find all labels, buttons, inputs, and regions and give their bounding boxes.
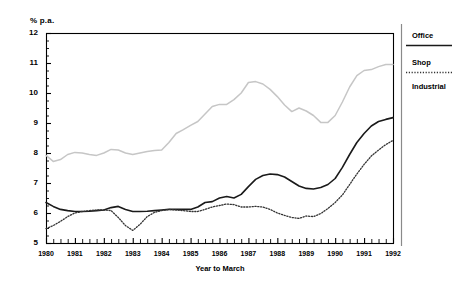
y-tick-label: 5 <box>22 238 38 247</box>
x-tick-label: 1984 <box>147 250 177 257</box>
legend-label-shop: Shop <box>412 58 431 67</box>
x-tick-label: 1980 <box>31 250 61 257</box>
y-tick-label: 6 <box>22 208 38 217</box>
legend-label-office: Office <box>412 31 433 40</box>
y-tick-label: 11 <box>22 58 38 67</box>
x-tick-label: 1981 <box>60 250 90 257</box>
x-tick-label: 1988 <box>262 250 292 257</box>
plot-frame <box>47 34 394 244</box>
x-tick-label: 1992 <box>378 250 408 257</box>
series-group <box>46 65 393 231</box>
y-tick-label: 7 <box>22 178 38 187</box>
y-tick-label: 10 <box>22 88 38 97</box>
series-line-industrial <box>46 65 393 162</box>
x-tick-label: 1983 <box>118 250 148 257</box>
chart-figure: % p.a. 56789101112 198019811982198319841… <box>0 0 455 287</box>
x-tick-label: 1982 <box>89 250 119 257</box>
chart-plot-svg <box>0 0 455 287</box>
axes-group <box>46 34 394 244</box>
x-axis-title: Year to March <box>170 264 270 273</box>
series-line-shop <box>46 140 393 230</box>
x-tick-label: 1987 <box>233 250 263 257</box>
x-tick-label: 1991 <box>349 250 379 257</box>
series-line-office <box>46 118 393 212</box>
x-tick-label: 1986 <box>205 250 235 257</box>
legend-label-industrial: Industrial <box>412 82 446 91</box>
y-tick-label: 8 <box>22 148 38 157</box>
x-tick-label: 1989 <box>291 250 321 257</box>
y-tick-label: 12 <box>22 28 38 37</box>
x-tick-label: 1990 <box>320 250 350 257</box>
x-tick-label: 1985 <box>176 250 206 257</box>
y-tick-label: 9 <box>22 118 38 127</box>
